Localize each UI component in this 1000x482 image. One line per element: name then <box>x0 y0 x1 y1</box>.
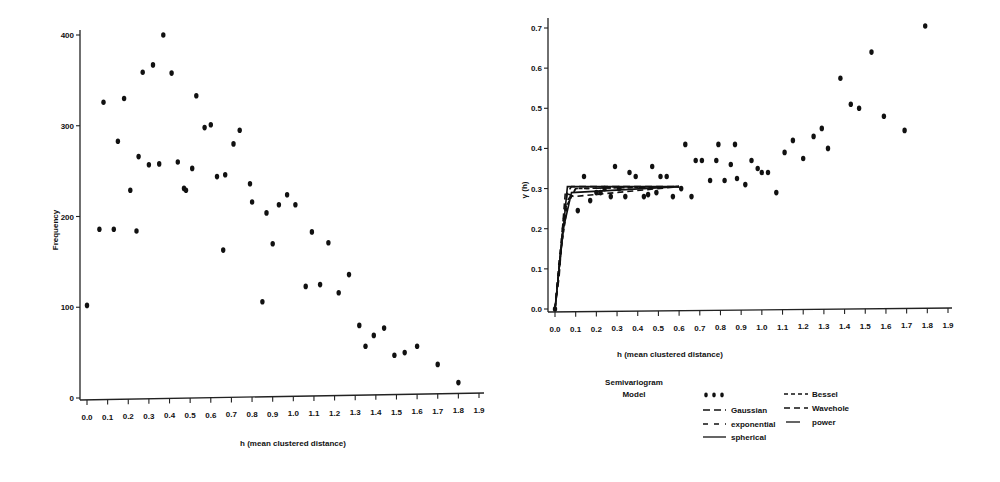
right-x-axis-title: h (mean clustered distance) <box>617 350 723 359</box>
data-point <box>722 178 726 184</box>
data-point <box>729 162 733 168</box>
figure-canvas: 0100200300400 0.00.10.20.30.40.50.60.70.… <box>0 0 1000 482</box>
data-point <box>849 102 853 108</box>
data-point <box>363 344 367 350</box>
data-point <box>609 194 613 200</box>
y-tick-label: 300 <box>61 122 75 131</box>
semivariogram-chart: 0.00.10.20.30.40.50.60.7 0.00.10.20.30.4… <box>520 18 954 442</box>
legend-entry-power: power <box>786 418 836 427</box>
data-point <box>134 228 138 234</box>
left-x-ticks: 0.00.10.20.30.40.50.60.70.80.91.01.11.21… <box>81 393 485 422</box>
data-point <box>689 194 693 200</box>
data-point <box>749 158 753 164</box>
x-tick-label: 0.7 <box>694 324 706 333</box>
data-point <box>277 202 281 208</box>
data-point <box>735 176 739 182</box>
data-point <box>700 158 704 164</box>
x-tick-label: 1.5 <box>391 408 403 417</box>
legend-title-line2: Model <box>622 390 645 399</box>
x-tick-label: 0.0 <box>81 413 93 422</box>
data-point <box>733 142 737 148</box>
legend-entry-exponential: exponential <box>703 420 775 429</box>
data-point <box>665 174 669 180</box>
data-point <box>869 49 873 55</box>
data-point <box>190 166 194 172</box>
data-point <box>826 146 830 152</box>
legend-entry-gaussian: Gaussian <box>703 406 767 415</box>
x-tick-label: 1.8 <box>922 321 934 330</box>
data-point <box>221 247 225 253</box>
data-point <box>760 170 764 176</box>
data-point <box>671 194 675 200</box>
data-point <box>627 170 631 176</box>
data-point <box>176 159 180 165</box>
legend-label-power: power <box>812 418 836 427</box>
data-point <box>161 32 165 38</box>
legend-title-line1: Semivariogram <box>605 378 663 387</box>
x-tick-label: 0.3 <box>611 324 623 333</box>
y-tick-label: 0.6 <box>531 64 543 73</box>
x-tick-label: 0.3 <box>143 412 155 421</box>
left-x-axis-title: h (mean clustered distance) <box>240 439 346 448</box>
data-point <box>260 299 264 305</box>
data-point <box>714 158 718 164</box>
data-point <box>382 325 386 331</box>
data-point <box>576 208 580 214</box>
right-model-curves <box>555 187 679 309</box>
model-curve-spherical <box>555 187 679 309</box>
y-tick-label: 0 <box>70 394 75 403</box>
data-point <box>223 172 227 178</box>
data-point <box>923 23 927 29</box>
data-point <box>151 62 155 68</box>
data-point <box>248 181 252 187</box>
data-point <box>372 333 376 339</box>
y-tick-label: 0.7 <box>531 24 543 33</box>
x-tick-label: 0.5 <box>185 411 197 420</box>
data-point <box>357 323 361 329</box>
x-tick-label: 0.9 <box>267 410 279 419</box>
data-point <box>136 154 140 160</box>
data-point <box>310 229 314 235</box>
data-point <box>588 198 592 204</box>
x-tick-label: 1.9 <box>473 406 485 415</box>
left-y-ticks: 0100200300400 <box>61 31 80 403</box>
data-point <box>209 122 213 128</box>
legend-entry-bessel: Bessel <box>784 390 838 399</box>
data-point <box>169 70 173 76</box>
data-point <box>112 226 116 232</box>
x-tick-label: 1.5 <box>860 322 872 331</box>
data-point <box>774 190 778 196</box>
right-y-axis-title: γ (h) <box>520 181 529 198</box>
data-point <box>264 210 268 216</box>
legend-label-spherical: spherical <box>731 433 766 442</box>
data-point <box>766 170 770 176</box>
x-tick-label: 0.0 <box>549 325 561 334</box>
data-point <box>215 174 219 180</box>
data-point <box>141 69 145 75</box>
x-tick-label: 1.7 <box>432 407 444 416</box>
data-point <box>642 194 646 200</box>
data-point <box>882 114 886 120</box>
x-tick-label: 0.1 <box>570 325 582 334</box>
x-tick-label: 0.2 <box>123 412 135 421</box>
right-y-ticks: 0.00.10.20.30.40.50.60.7 <box>531 24 548 314</box>
x-tick-label: 1.1 <box>777 323 789 332</box>
data-point <box>194 93 198 99</box>
x-tick-label: 0.9 <box>736 323 748 332</box>
data-point <box>238 128 242 134</box>
data-point <box>646 192 650 198</box>
y-tick-label: 200 <box>61 213 75 222</box>
data-point <box>756 166 760 172</box>
x-tick-label: 0.8 <box>715 323 727 332</box>
x-tick-label: 1.0 <box>288 409 300 418</box>
data-point <box>392 353 396 359</box>
data-point <box>85 303 89 309</box>
data-point <box>318 282 322 288</box>
frequency-chart: 0100200300400 0.00.10.20.30.40.50.60.70.… <box>51 30 485 448</box>
data-point <box>250 199 254 205</box>
right-x-axis <box>548 308 952 312</box>
data-point <box>436 362 440 368</box>
data-point <box>716 142 720 148</box>
data-point <box>347 272 351 278</box>
legend-entry-spherical: spherical <box>703 433 766 442</box>
